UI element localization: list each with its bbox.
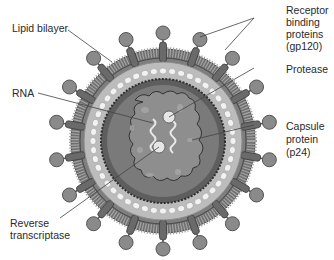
gp120-knob [225, 217, 239, 231]
gp120-knob [250, 188, 264, 202]
label-receptor-line1: Receptor [286, 4, 329, 16]
label-protease: Protease [286, 63, 328, 75]
gp120-knob [87, 217, 101, 231]
gp120-knob [119, 33, 133, 47]
gp120-knob [50, 115, 64, 129]
gp41-stem [160, 220, 167, 240]
label-reverse-transcriptase-line1: Reverse [10, 217, 49, 229]
gp120-knob [225, 51, 239, 65]
gp120-knob [156, 242, 170, 256]
label-lipid-bilayer: Lipid bilayer [12, 22, 68, 34]
label-rna: RNA [12, 87, 34, 99]
gp41-stem [160, 42, 167, 62]
gp120-knob [62, 188, 76, 202]
label-reverse-transcriptase-line2: transcriptase [10, 229, 70, 241]
hiv-virion-diagram [0, 0, 334, 260]
label-capsule-line2: protein [286, 133, 318, 145]
core-blob [129, 91, 203, 181]
gp120-knob [250, 80, 264, 94]
gp120-knob [50, 153, 64, 167]
label-capsule-line3: (p24) [286, 146, 311, 158]
gp120-knob [87, 51, 101, 65]
label-receptor-line3: proteins [286, 28, 323, 40]
gp120-knob [156, 26, 170, 40]
gp120-knob [262, 153, 276, 167]
label-receptor-line2: binding [286, 16, 320, 28]
label-receptor-line4: (gp120) [286, 40, 322, 52]
gp120-knob [62, 80, 76, 94]
gp120-knob [262, 115, 276, 129]
gp120-knob [119, 235, 133, 249]
label-capsule-line1: Capsule [286, 120, 325, 132]
gp120-knob [193, 235, 207, 249]
gp120-knob [193, 33, 207, 47]
